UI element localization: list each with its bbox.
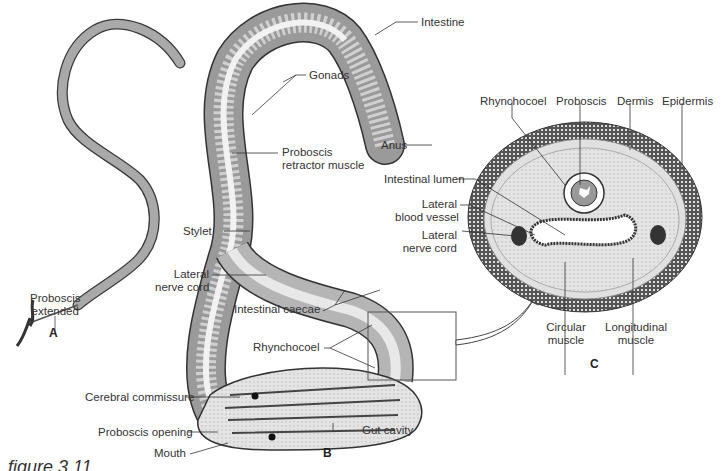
panel-label-a: A: [49, 326, 58, 340]
label-cerebral-commissure: Cerebral commissure: [85, 391, 194, 404]
label-line: Proboscis: [30, 292, 81, 305]
label-epidermis: Epidermis: [662, 95, 713, 108]
label-lateral-nerve-cord-b: Lateral nerve cord: [155, 268, 209, 294]
label-line: retractor muscle: [282, 159, 364, 172]
label-rhynchocoel-b: Rhynchocoel: [253, 341, 319, 354]
label-line: nerve cord: [155, 281, 209, 294]
label-intestinal-lumen: Intestinal lumen: [384, 173, 465, 186]
panel-label-c: C: [590, 357, 599, 371]
label-line: Proboscis: [282, 146, 364, 159]
label-proboscis-retractor-muscle: Proboscis retractor muscle: [282, 146, 364, 172]
label-line: extended: [30, 305, 81, 318]
label-line: Lateral: [395, 198, 457, 211]
label-line: muscle: [540, 334, 592, 347]
label-mouth: Mouth: [154, 447, 186, 460]
label-gut-cavity: Gut cavity: [362, 424, 413, 437]
label-line: Circular: [540, 321, 592, 334]
label-line: Lateral: [395, 229, 457, 242]
label-longitudinal-muscle: Longitudinal muscle: [605, 321, 667, 347]
label-dermis: Dermis: [617, 95, 653, 108]
label-circular-muscle: Circular muscle: [540, 321, 592, 347]
label-line: Lateral: [155, 268, 209, 281]
label-lateral-nerve-cord-c: Lateral nerve cord: [395, 229, 457, 255]
label-lateral-blood-vessel: Lateral blood vessel: [395, 198, 457, 224]
label-rhynchocoel-c: Rhynchocoel: [480, 95, 546, 108]
label-gonads: Gonads: [309, 69, 349, 82]
worm-cross-section: [468, 122, 702, 312]
label-proboscis: Proboscis: [556, 95, 607, 108]
label-intestinal-caecae: Intestinal caecae: [234, 303, 320, 316]
figure-caption: figure 3.11: [8, 460, 92, 471]
label-line: Longitudinal: [605, 321, 667, 334]
label-line: nerve cord: [395, 242, 457, 255]
panel-label-b: B: [323, 446, 332, 460]
label-intestine: Intestine: [421, 16, 464, 29]
label-stylet: Stylet: [183, 225, 212, 238]
label-proboscis-extended: Proboscis extended: [30, 292, 81, 318]
label-line: muscle: [605, 334, 667, 347]
label-anus: Anus: [381, 139, 407, 152]
label-proboscis-opening: Proboscis opening: [98, 426, 193, 439]
label-line: blood vessel: [395, 211, 457, 224]
